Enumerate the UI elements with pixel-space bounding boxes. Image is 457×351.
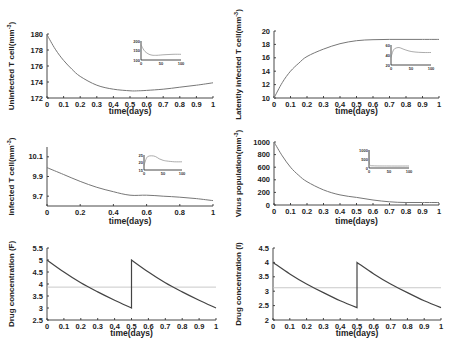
inset-y-tick: 25: [139, 153, 144, 158]
y-tick-label: 800: [257, 150, 270, 159]
y-axis-label: Drug concentration (F): [7, 241, 16, 328]
inset-y-tick: 150: [133, 48, 140, 53]
axes-frame: [47, 147, 213, 206]
x-tick-label: 0.2: [76, 322, 86, 331]
x-tick-label: 0.8: [401, 207, 411, 216]
y-tick-label: 14: [262, 67, 271, 76]
y-tick-label: 400: [257, 175, 270, 184]
y-axis-label: Drug concentration (I): [234, 242, 243, 326]
y-tick-label: 178: [30, 46, 43, 55]
inset-curve: [141, 45, 181, 56]
x-tick-label: 0.3: [318, 322, 328, 331]
inset-x-tick: 50: [159, 61, 164, 66]
x-axis-label: time(days): [110, 328, 153, 338]
axes-frame: [274, 142, 439, 205]
x-tick-label: 0: [271, 322, 275, 331]
x-tick-label: 0.9: [191, 100, 201, 109]
y-tick-label: 16: [262, 53, 270, 62]
x-tick-label: 0.8: [402, 322, 412, 331]
inset-y-tick: 500: [361, 157, 368, 162]
y-axis-label: Uninfected T cell(mm-3): [6, 21, 16, 110]
x-tick-label: 0.9: [417, 207, 427, 216]
y-tick-label: 172: [30, 94, 43, 103]
x-tick-label: 0.7: [158, 100, 168, 109]
x-tick-label: 0.9: [419, 322, 429, 331]
inset-curve: [369, 150, 409, 166]
data-curve: [47, 260, 216, 308]
y-tick-label: 4: [265, 258, 270, 267]
inset-x-tick: 0: [143, 171, 146, 176]
x-tick-label: 0.2: [302, 100, 312, 109]
y-axis-label: Virus population(mm-3): [233, 129, 243, 217]
x-tick-label: 0.1: [285, 100, 295, 109]
inset-y-tick: 100: [133, 58, 140, 63]
inset-curve: [391, 47, 431, 57]
x-tick-label: 1: [437, 207, 441, 216]
x-axis-label: time(days): [109, 216, 152, 226]
x-tick-label: 0: [272, 207, 276, 216]
y-tick-label: 1000: [253, 138, 270, 147]
inset-y-tick: 20: [386, 63, 391, 68]
x-tick-label: 0.8: [177, 322, 187, 331]
y-tick-label: 3.5: [259, 272, 269, 281]
x-tick-label: 0.1: [285, 207, 295, 216]
x-tick-label: 0: [45, 208, 49, 217]
x-tick-label: 0.9: [417, 100, 427, 109]
inset-chart: 05010005001000: [359, 148, 413, 174]
chart-drug-F: 00.10.20.30.40.50.60.70.80.912.533.544.5…: [7, 241, 218, 338]
y-tick-label: 5: [39, 256, 43, 265]
x-tick-label: 1: [211, 208, 215, 217]
inset-chart: 050100152025: [139, 153, 187, 176]
y-tick-label: 3: [39, 304, 43, 313]
x-tick-label: 1: [211, 100, 215, 109]
x-tick-label: 0.8: [175, 208, 185, 217]
chart-latently-infected: 00.10.20.30.40.50.60.70.80.9110121416182…: [233, 9, 441, 120]
x-tick-label: 0.7: [385, 322, 395, 331]
inset-y-tick: 1000: [359, 148, 369, 153]
y-tick-label: 20: [262, 27, 270, 36]
x-tick-label: 0.2: [302, 207, 312, 216]
y-tick-label: 180: [30, 30, 43, 39]
inset-chart: 050100204060: [386, 43, 436, 71]
x-tick-label: 0.8: [175, 100, 185, 109]
y-tick-label: 200: [257, 188, 270, 197]
x-tick-label: 0.1: [58, 100, 68, 109]
chart-virus: 00.10.20.30.40.50.60.70.80.9102004006008…: [233, 129, 441, 226]
inset-curve: [144, 156, 182, 166]
y-tick-label: 4.5: [33, 268, 43, 277]
inset-x-tick: 50: [409, 66, 414, 71]
inset-axes: [144, 155, 182, 170]
y-tick-label: 174: [30, 78, 43, 87]
y-tick-label: 4.5: [259, 244, 269, 253]
x-tick-label: 0.5: [351, 207, 361, 216]
y-tick-label: 2.5: [33, 316, 43, 325]
inset-y-tick: 200: [133, 39, 140, 44]
chart-drug-I: 00.10.20.30.40.50.60.70.80.9122.533.544.…: [234, 242, 443, 338]
y-tick-label: 2.5: [259, 301, 269, 310]
inset-x-tick: 50: [161, 171, 166, 176]
y-tick-label: 176: [30, 62, 43, 71]
inset-x-tick: 100: [178, 61, 185, 66]
inset-axes: [141, 41, 181, 60]
x-tick-label: 0.3: [318, 100, 328, 109]
x-tick-label: 0.1: [285, 322, 295, 331]
x-tick-label: 1: [439, 322, 443, 331]
x-tick-label: 0.8: [401, 100, 411, 109]
data-curve: [47, 168, 213, 201]
data-curve: [47, 35, 213, 91]
data-curve: [273, 262, 441, 307]
x-tick-label: 0.2: [75, 208, 85, 217]
inset-x-tick: 100: [428, 66, 435, 71]
x-tick-label: 0.7: [160, 322, 170, 331]
inset-axes: [369, 150, 409, 168]
x-tick-label: 0: [45, 100, 49, 109]
inset-y-tick: 20: [139, 160, 144, 165]
y-tick-label: 3: [265, 287, 269, 296]
chart-uninfected: 00.10.20.30.40.50.60.70.80.9117217417617…: [6, 21, 215, 116]
inset-x-tick: 0: [368, 169, 371, 174]
y-tick-label: 10.1: [28, 152, 43, 161]
x-tick-label: 0.3: [92, 322, 102, 331]
inset-y-tick: 60: [386, 43, 391, 48]
x-tick-label: 0.7: [384, 100, 394, 109]
figure: 00.10.20.30.40.50.60.70.80.9117217417617…: [0, 0, 457, 351]
